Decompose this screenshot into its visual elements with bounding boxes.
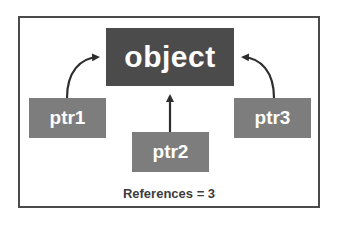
arrow-ptr3-to-object: [243, 57, 274, 98]
pointer-label: ptr3: [255, 107, 291, 129]
arrow-ptr1-to-object: [67, 57, 98, 98]
pointer-node-ptr1: ptr1: [29, 98, 106, 138]
pointer-node-ptr2: ptr2: [132, 132, 209, 172]
object-node: object: [106, 28, 234, 86]
pointer-node-ptr3: ptr3: [234, 98, 311, 138]
reference-count-caption: References = 3: [18, 186, 320, 201]
pointer-label: ptr2: [153, 141, 189, 163]
object-label: object: [124, 40, 215, 74]
pointer-label: ptr1: [50, 107, 86, 129]
